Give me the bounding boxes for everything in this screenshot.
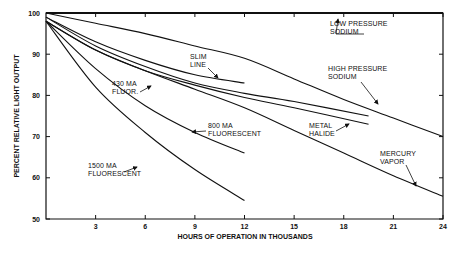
x-tick-label: 9 <box>193 223 197 230</box>
x-tick-label: 6 <box>143 223 147 230</box>
x-tick-label: 24 <box>439 223 447 230</box>
x-tick-label: 15 <box>290 223 298 230</box>
series-430-ma-fluor <box>46 17 369 116</box>
annotation-text: FLUOR. <box>112 88 138 95</box>
y-tick-label: 90 <box>32 51 40 58</box>
series-high-pressure-sodium <box>46 13 443 137</box>
chart-canvas: 36912151821245060708090100 LOW PRESSURES… <box>0 0 456 253</box>
y-tick-label: 80 <box>32 92 40 99</box>
annotation: LOW PRESSURESODIUM <box>330 19 388 35</box>
annotation-text: 800 MA <box>208 122 233 129</box>
annotation: 800 MAFLUORESCENT <box>192 122 262 137</box>
x-tick-label: 12 <box>241 223 249 230</box>
series-1500-ma-fluorescent <box>46 21 245 200</box>
y-axis-label: PERCENT RELATIVE LIGHT OUTPUT <box>13 54 20 178</box>
x-tick-label: 18 <box>340 223 348 230</box>
annotation-text: FLUORESCENT <box>88 170 142 177</box>
arrow-icon <box>361 82 378 104</box>
annotation: MERCURYVAPOR <box>380 150 416 186</box>
series-metal-halide <box>46 21 369 124</box>
annotation-text: FLUORESCENT <box>208 130 262 137</box>
annotation-text: SODIUM <box>328 73 357 80</box>
annotation: HIGH PRESSURESODIUM <box>328 65 387 104</box>
arrow-icon <box>336 124 349 131</box>
x-tick-label: 21 <box>389 223 397 230</box>
annotation-text: HIGH PRESSURE <box>328 65 387 72</box>
arrow-icon <box>192 131 206 132</box>
y-tick-label: 100 <box>28 10 40 17</box>
y-tick-label: 50 <box>32 216 40 223</box>
annotation: 430 MAFLUOR. <box>112 80 151 95</box>
x-axis-label: HOURS OF OPERATION IN THOUSANDS <box>177 233 313 240</box>
y-tick-label: 60 <box>32 174 40 181</box>
annotation-text: MERCURY <box>380 150 416 157</box>
plot-frame <box>46 13 443 219</box>
annotation: 1500 MAFLUORESCENT <box>88 162 142 177</box>
arrow-icon <box>208 68 218 78</box>
annotation-text: VAPOR <box>380 158 405 165</box>
annotation-text: LOW PRESSURE <box>330 20 388 27</box>
x-tick-label: 3 <box>94 223 98 230</box>
light-output-chart: 36912151821245060708090100 LOW PRESSURES… <box>0 0 456 253</box>
annotations: LOW PRESSURESODIUMHIGH PRESSURESODIUMSLI… <box>88 19 416 186</box>
annotation-text: HALIDE <box>309 130 335 137</box>
annotation: METALHALIDE <box>309 122 349 137</box>
y-tick-label: 70 <box>32 133 40 140</box>
arrow-icon <box>140 86 151 92</box>
annotation-text: 430 MA <box>112 80 137 87</box>
annotation-text: METAL <box>309 122 332 129</box>
annotation-text: 1500 MA <box>88 162 117 169</box>
annotation-text: LINE <box>190 61 206 68</box>
annotation-text: SLIM <box>190 53 207 60</box>
